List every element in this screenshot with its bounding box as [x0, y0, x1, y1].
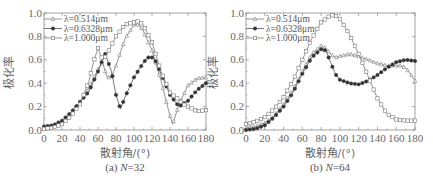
filled-circle-marker-icon	[68, 112, 71, 115]
x-tick-label: 20	[259, 132, 271, 144]
open-square-marker-icon	[286, 89, 289, 92]
open-square-marker-icon	[89, 72, 92, 75]
filled-circle-marker-icon	[387, 65, 390, 68]
filled-circle-marker-icon	[186, 99, 189, 102]
open-square-marker-icon	[331, 14, 334, 17]
y-tick-label: 0.2	[230, 100, 244, 112]
open-square-marker-icon	[368, 79, 371, 82]
open-square-marker-icon	[86, 84, 89, 87]
y-tick-label: 0.4	[28, 77, 42, 89]
open-square-marker-icon	[194, 109, 197, 112]
open-square-marker-icon	[410, 119, 413, 122]
filled-circle-marker-icon	[143, 59, 146, 62]
open-triangle-marker-icon	[186, 84, 189, 87]
open-triangle-marker-icon	[161, 86, 164, 89]
filled-circle-marker-icon	[364, 80, 367, 83]
filled-circle-marker-icon	[147, 56, 150, 59]
open-square-marker-icon	[361, 61, 364, 64]
open-square-marker-icon	[304, 50, 307, 53]
legend-label: λ=1.000μm	[266, 33, 310, 43]
filled-circle-marker-icon	[194, 91, 197, 94]
open-square-marker-icon	[183, 103, 186, 106]
legend-item: λ=0.6328μm	[44, 24, 113, 34]
open-square-marker-icon	[406, 119, 409, 122]
filled-circle-marker-icon	[342, 79, 345, 82]
open-square-marker-icon	[96, 46, 99, 49]
filled-circle-marker-icon	[190, 95, 193, 98]
filled-circle-marker-icon	[172, 98, 175, 101]
open-square-marker-icon	[107, 49, 110, 52]
open-square-marker-icon	[100, 56, 103, 59]
open-square-marker-icon	[82, 93, 85, 96]
filled-circle-marker-icon	[361, 81, 364, 84]
open-square-marker-icon	[383, 109, 386, 112]
filled-circle-marker-icon	[402, 59, 405, 62]
y-tick-label: 0.2	[28, 100, 42, 112]
open-square-marker-icon	[353, 44, 356, 47]
filled-circle-marker-icon	[410, 59, 413, 62]
open-square-marker-icon	[179, 100, 182, 103]
filled-circle-marker-icon	[274, 113, 277, 116]
open-square-marker-icon	[297, 67, 300, 70]
open-square-marker-icon	[186, 105, 189, 108]
series-filled-circle	[42, 52, 207, 128]
y-tick-label: 0.6	[28, 53, 42, 65]
filled-circle-marker-icon	[244, 128, 247, 131]
open-square-marker-icon	[349, 36, 352, 39]
open-triangle-marker-icon	[150, 48, 153, 51]
filled-circle-marker-icon	[129, 84, 132, 87]
open-square-marker-icon	[267, 112, 270, 115]
open-square-marker-icon	[111, 42, 114, 45]
open-square-marker-icon	[147, 34, 150, 37]
x-tick-label: 100	[332, 132, 349, 144]
filled-circle-marker-icon	[316, 51, 319, 54]
open-square-marker-icon	[372, 88, 375, 91]
open-square-marker-icon	[57, 124, 60, 127]
legend-item: λ=0.514μm	[44, 14, 108, 24]
y-tick-label: 0.4	[230, 77, 244, 89]
x-axis-label: 散射角/(°)	[305, 146, 356, 160]
filled-circle-marker-icon	[372, 76, 375, 79]
open-square-marker-icon	[75, 107, 78, 110]
open-square-marker-icon	[136, 20, 139, 23]
filled-circle-marker-icon	[150, 56, 153, 59]
filled-circle-marker-icon	[353, 82, 356, 85]
open-square-marker-icon	[395, 118, 398, 121]
filled-circle-marker-icon	[357, 83, 360, 86]
filled-circle-marker-icon	[132, 76, 135, 79]
y-tick-label: 0.8	[230, 30, 244, 42]
y-tick-label: 1.0	[28, 7, 42, 19]
open-square-marker-icon	[78, 103, 81, 106]
legend-item: λ=0.6328μm	[246, 24, 315, 34]
open-square-marker-icon	[68, 116, 71, 119]
filled-circle-marker-icon	[140, 64, 143, 67]
filled-circle-marker-icon	[376, 73, 379, 76]
open-triangle-marker-icon	[176, 108, 179, 111]
filled-circle-marker-icon	[346, 81, 349, 84]
open-square-marker-icon	[323, 18, 326, 21]
y-axis-label: 极化率	[206, 56, 220, 89]
filled-circle-marker-icon	[256, 126, 259, 129]
open-square-marker-icon	[129, 22, 132, 25]
filled-circle-marker-icon	[413, 59, 416, 62]
filled-circle-marker-icon	[100, 60, 103, 63]
open-square-marker-icon	[51, 36, 54, 39]
filled-circle-marker-icon	[271, 117, 274, 120]
open-square-marker-icon	[143, 27, 146, 30]
open-square-marker-icon	[125, 23, 128, 26]
filled-circle-marker-icon	[259, 125, 262, 128]
open-square-marker-icon	[201, 109, 204, 112]
filled-circle-marker-icon	[282, 105, 285, 108]
open-square-marker-icon	[42, 127, 45, 130]
legend-label: λ=0.514μm	[266, 14, 310, 24]
open-square-marker-icon	[252, 121, 255, 124]
open-square-marker-icon	[402, 119, 405, 122]
filled-circle-marker-icon	[86, 92, 89, 95]
filled-circle-marker-icon	[248, 128, 251, 131]
open-square-marker-icon	[46, 127, 49, 130]
filled-circle-marker-icon	[96, 70, 99, 73]
filled-circle-marker-icon	[93, 78, 96, 81]
x-tick-label: 20	[57, 132, 69, 144]
y-axis-ticks: 0.00.20.40.60.81.0	[28, 7, 206, 136]
legend-item: λ=0.514μm	[246, 14, 310, 24]
